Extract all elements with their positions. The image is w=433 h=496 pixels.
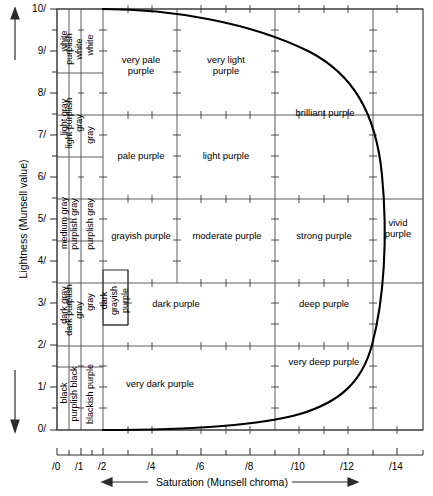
inner-ticks-rows xyxy=(128,5,397,434)
x-axis-title: Saturation (Munsell chroma) xyxy=(152,476,292,488)
region-dark-purplish-gray: dark purplish gray xyxy=(65,273,85,347)
vertical-gridlines xyxy=(57,9,373,430)
region-gray-lower: gray xyxy=(86,277,96,327)
y-tick-9: 9/ xyxy=(20,45,46,56)
x-tick-6: /6 xyxy=(196,461,204,472)
x-tick-10: /10 xyxy=(291,461,305,472)
y-axis-title: Lightness (Munsell value) xyxy=(17,149,29,289)
y-tick-0: 0/ xyxy=(20,423,46,434)
y-tick-7: 7/ xyxy=(20,129,46,140)
region-blackish-purple: blackish purple xyxy=(86,359,96,429)
y-tick-8: 8/ xyxy=(20,87,46,98)
x-tick-4: /4 xyxy=(147,461,155,472)
region-purplish-gray: purplish gray xyxy=(70,189,80,259)
x-tick-12: /12 xyxy=(340,461,354,472)
region-purplish-black: purplish black xyxy=(70,360,80,428)
gamut-boundary-curve xyxy=(103,9,385,430)
region-white-c3: white xyxy=(86,20,96,70)
y-tick-1: 1/ xyxy=(20,381,46,392)
x-tick-2: /2 xyxy=(98,461,106,472)
region-dark-grayish-purple: dark grayish purple xyxy=(99,277,130,325)
x-tick-8: /8 xyxy=(245,461,253,472)
horizontal-gridlines xyxy=(57,9,423,430)
y-tick-10: 10/ xyxy=(20,3,46,14)
plot-frame xyxy=(57,9,423,430)
x-tick-14: /14 xyxy=(389,461,403,472)
region-light-purplish-gray: light purplish gray xyxy=(65,82,85,164)
region-purplish-white: purplish white xyxy=(65,18,85,80)
y-tick-2: 2/ xyxy=(20,339,46,350)
region-gray-upper: gray xyxy=(86,110,96,160)
y-axis-ticks xyxy=(50,9,57,430)
munsell-purple-diagram: 10/ 9/ 8/ 7/ 6/ 5/ 4/ 3/ 2/ 1/ 0/ /0 /1 … xyxy=(0,0,433,496)
region-purplish-gray-c3: purplish gray xyxy=(86,189,96,259)
ticks-on-verticals xyxy=(124,30,377,408)
x-tick-0: /0 xyxy=(52,461,60,472)
x-tick-1: /1 xyxy=(75,461,83,472)
y-tick-3: 3/ xyxy=(20,297,46,308)
